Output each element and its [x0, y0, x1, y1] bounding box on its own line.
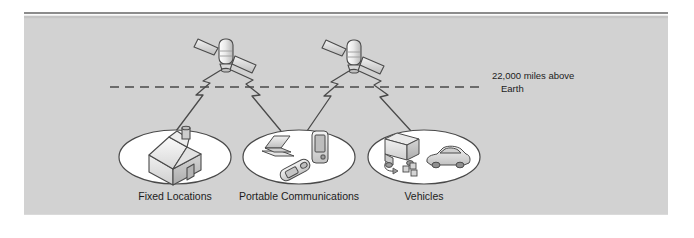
figure-panel-top-shade [24, 16, 668, 18]
satellite-dish-rim [349, 69, 358, 73]
figure-panel [24, 16, 668, 215]
house-chimney-top [182, 126, 190, 130]
orbit-label-line1: 22,000 miles above [492, 70, 574, 81]
top-rule [24, 12, 668, 14]
satellite-body [347, 40, 361, 65]
car-wheel-rear [456, 162, 464, 168]
pda-button [321, 155, 325, 159]
pda-icon [312, 131, 328, 163]
group-ellipse [243, 130, 355, 184]
pda-screen [315, 135, 325, 152]
car-wheel-front [432, 162, 440, 168]
group-label-portable-communications: Portable Communications [239, 190, 359, 202]
satellite-body [219, 39, 233, 64]
top-rule-highlight [24, 14, 668, 16]
group-portable-communications: Portable Communications [239, 130, 359, 202]
satellite-communication-diagram: Fixed Locations Portable [0, 0, 694, 238]
satellite-dish-rim [221, 68, 230, 72]
group-label-fixed-locations: Fixed Locations [138, 190, 212, 202]
orbit-label-line2: Earth [501, 83, 524, 94]
group-label-vehicles: Vehicles [404, 190, 443, 202]
truck-wheel-front [386, 163, 393, 168]
